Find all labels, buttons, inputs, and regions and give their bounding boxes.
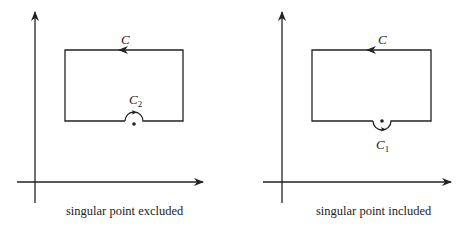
- indent-arrow-icon: [381, 127, 386, 132]
- indent-label: C2: [129, 92, 142, 109]
- diagram: C C2 singular point excluded C C1 singul…: [0, 0, 461, 228]
- caption: singular point excluded: [66, 204, 184, 218]
- contour-c: [65, 50, 183, 121]
- left-panel: C C2 singular point excluded: [17, 12, 203, 218]
- right-panel: C C1 singular point included: [263, 12, 451, 218]
- singular-point: [380, 119, 384, 123]
- singular-point: [132, 122, 136, 126]
- caption: singular point included: [316, 204, 432, 218]
- contour-label: C: [378, 32, 387, 47]
- indent-label: C1: [376, 137, 389, 154]
- contour-c: [312, 50, 431, 130]
- contour-label: C: [121, 32, 130, 47]
